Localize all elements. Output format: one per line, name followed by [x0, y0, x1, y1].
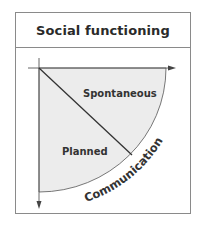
spontaneous-label: Spontaneous [83, 88, 157, 99]
planned-label: Planned [62, 146, 108, 157]
horizontal-arrow-icon [168, 66, 176, 71]
vertical-arrow-icon [37, 201, 42, 209]
quadrant-diagram: Spontaneous Planned Communication [0, 0, 200, 226]
